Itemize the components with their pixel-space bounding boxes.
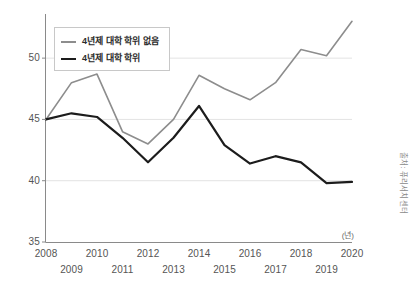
- x-tick-label: 2011: [106, 264, 140, 275]
- chart-legend: 4년제 대학 학위 없음 4년제 대학 학위: [54, 27, 170, 71]
- legend-item-degree: 4년제 대학 학위: [61, 50, 163, 67]
- x-tick-label: 2019: [310, 264, 344, 275]
- x-tick-label: 2018: [284, 248, 318, 259]
- legend-label-degree: 4년제 대학 학위: [82, 54, 140, 63]
- legend-line-swatch-gray: [61, 41, 76, 43]
- y-tick-label: 35: [14, 236, 40, 247]
- legend-item-no-degree: 4년제 대학 학위 없음: [61, 33, 163, 50]
- x-tick-label: 2015: [208, 264, 242, 275]
- x-tick-label: 2008: [29, 248, 63, 259]
- axis-unit-label: (년): [342, 229, 354, 240]
- x-tick-label: 2012: [131, 248, 165, 259]
- x-tick-label: 2009: [55, 264, 89, 275]
- legend-label-no-degree: 4년제 대학 학위 없음: [82, 37, 159, 46]
- x-tick-label: 2014: [182, 248, 216, 259]
- source-label: 출처: 퓨리서치센터: [399, 152, 410, 214]
- y-tick-label: 45: [14, 113, 40, 124]
- y-tick-label: 50: [14, 52, 40, 63]
- x-tick-label: 2017: [259, 264, 293, 275]
- legend-line-swatch-black: [61, 58, 76, 60]
- x-tick-label: 2010: [80, 248, 114, 259]
- series-line-degree: [46, 106, 352, 183]
- y-tick-label: 40: [14, 175, 40, 186]
- x-tick-label: 2020: [335, 248, 369, 259]
- x-tick-label: 2016: [233, 248, 267, 259]
- x-tick-label: 2013: [157, 264, 191, 275]
